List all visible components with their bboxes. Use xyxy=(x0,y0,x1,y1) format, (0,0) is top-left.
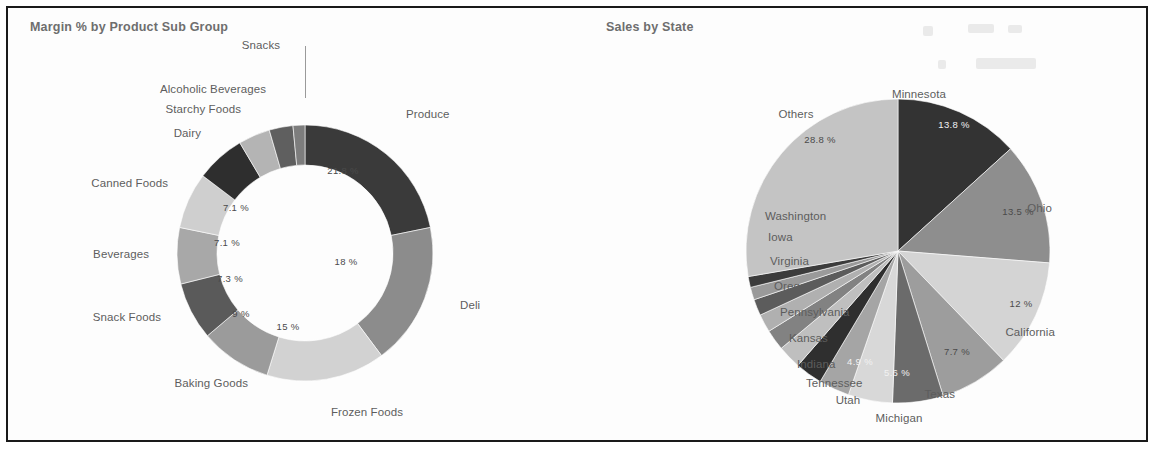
sales-value-label: 13.5 % xyxy=(1002,206,1033,217)
margin-category-label: Deli xyxy=(460,299,480,311)
sales-category-label: Oregon xyxy=(774,280,813,292)
sales-value-label: 5.6 % xyxy=(884,367,910,378)
margin-value-label: 15 % xyxy=(277,321,300,332)
margin-category-label: Starchy Foods xyxy=(166,103,241,115)
margin-value-label: 21.8 % xyxy=(327,165,358,176)
sales-category-label: Tennessee xyxy=(806,377,863,389)
sales-category-label: Virginia xyxy=(770,255,809,267)
margin-category-label: Produce xyxy=(406,108,450,120)
margin-category-label: Baking Goods xyxy=(175,377,248,389)
margin-value-label: 9 % xyxy=(232,308,249,319)
margin-category-label: Alcoholic Beverages xyxy=(160,83,266,95)
margin-category-label: Dairy xyxy=(174,127,201,139)
margin-value-label: 7.3 % xyxy=(217,273,243,284)
sales-value-label: 7.7 % xyxy=(944,346,970,357)
sales-category-label: Utah xyxy=(836,394,861,406)
sales-category-label: Iowa xyxy=(768,231,793,243)
chart-label-layer: SnacksAlcoholic BeveragesStarchy FoodsDa… xyxy=(8,8,1146,440)
sales-category-label: California xyxy=(1005,326,1055,338)
sales-category-label: Others xyxy=(778,108,813,120)
margin-category-label: Snack Foods xyxy=(93,311,161,323)
sales-value-label: 12 % xyxy=(1010,298,1033,309)
sales-value-label: 28.8 % xyxy=(804,134,835,145)
margin-value-label: 7.1 % xyxy=(223,202,249,213)
margin-category-label: Beverages xyxy=(93,248,149,260)
sales-category-label: Kansas xyxy=(789,332,828,344)
sales-value-label: 4.9 % xyxy=(847,356,873,367)
sales-category-label: Washington xyxy=(765,210,826,222)
report-frame: Margin % by Product Sub Group Sales by S… xyxy=(6,6,1148,442)
margin-category-label: Frozen Foods xyxy=(331,406,403,418)
margin-category-label: Snacks xyxy=(242,39,280,51)
sales-category-label: Minnesota xyxy=(892,88,946,100)
sales-value-label: 13.8 % xyxy=(938,119,969,130)
sales-category-label: Indiana xyxy=(797,358,835,370)
margin-value-label: 18 % xyxy=(335,256,358,267)
sales-category-label: Pennsylvania xyxy=(780,306,850,318)
sales-category-label: Texas xyxy=(924,388,955,400)
screenshot-root: Margin % by Product Sub Group Sales by S… xyxy=(0,0,1156,451)
sales-category-label: Michigan xyxy=(876,412,923,424)
margin-value-label: 7.1 % xyxy=(214,237,240,248)
margin-category-label: Canned Foods xyxy=(91,177,168,189)
